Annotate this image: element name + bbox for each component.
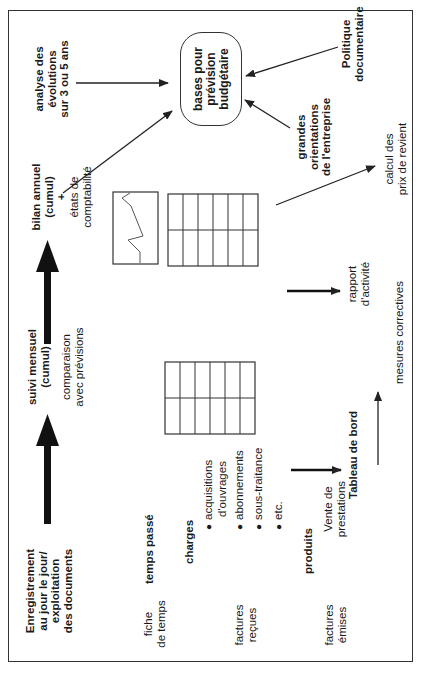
stage-analyse-evolutions: analyse des évolutions sur 3 ou 5 ans: [33, 24, 71, 134]
output-rapport-activite: rapport d'activité: [346, 244, 371, 324]
stage-comparaison: comparaison avec prévisions: [60, 322, 85, 412]
table-grid-monthly: [165, 362, 255, 434]
label-produits: produits: [302, 528, 315, 574]
label-temps-passe: temps passé: [143, 514, 156, 584]
arrow-orientations-to-bases: [245, 100, 290, 128]
line-chart-thumbnail: [113, 192, 158, 264]
output-tableau-de-bord: Tableau de bord: [347, 411, 360, 499]
source-factures-recues: factures reçues: [233, 590, 258, 660]
stage-enregistrement: Enregistrement au jour le jour/ exploita…: [24, 526, 74, 656]
bases-prevision-budgetaire-box: bases pour prévision budgétaire: [180, 32, 242, 126]
charges-item-abonnements: abonnements: [233, 450, 247, 530]
charges-item-acquisitions: acquisitions d'ouvrages: [202, 460, 228, 530]
stage-grandes-orientations: grandes orientations de l'entreprise: [295, 72, 333, 202]
source-fiche-temps: fiche de temps: [142, 584, 167, 664]
stage-bilan-annuel: bilan annuel (cumul) +: [30, 152, 68, 242]
table-grid-annual: [168, 194, 258, 266]
rotated-diagram: Enregistrement au jour le jour/ exploita…: [0, 0, 433, 684]
thick-arrow-1: [36, 414, 59, 524]
stage-politique-documentaire: Politique documentaire: [340, 0, 365, 94]
charges-item-etc: etc.: [272, 501, 286, 530]
stage-suivi-mensuel: suivi mensuel (cumul): [26, 322, 51, 412]
stage-etats-comptabilite: états de comptabilité: [68, 152, 93, 242]
label-charges: charges: [183, 520, 196, 564]
output-calcul-prix-revient: calcul des prix de revient: [383, 104, 408, 214]
source-factures-emises: factures émises: [323, 590, 348, 660]
output-mesures-correctives: mesures correctives: [393, 281, 406, 384]
charges-item-sous-traitance: sous-traitance: [252, 448, 266, 530]
source-vente-prestations: Vente de prestations: [322, 464, 347, 554]
